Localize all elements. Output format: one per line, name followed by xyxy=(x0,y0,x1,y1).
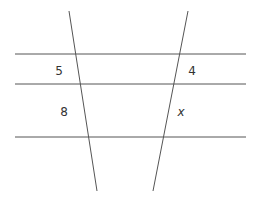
transversal-left xyxy=(69,11,97,191)
transversal-right xyxy=(153,11,188,191)
label-right-top: 4 xyxy=(188,64,196,78)
label-left-top: 5 xyxy=(55,64,63,78)
label-right-bottom-unknown: x xyxy=(176,105,185,119)
label-left-bottom: 8 xyxy=(60,105,68,119)
parallel-lines-diagram: 5 8 4 x xyxy=(0,0,256,199)
